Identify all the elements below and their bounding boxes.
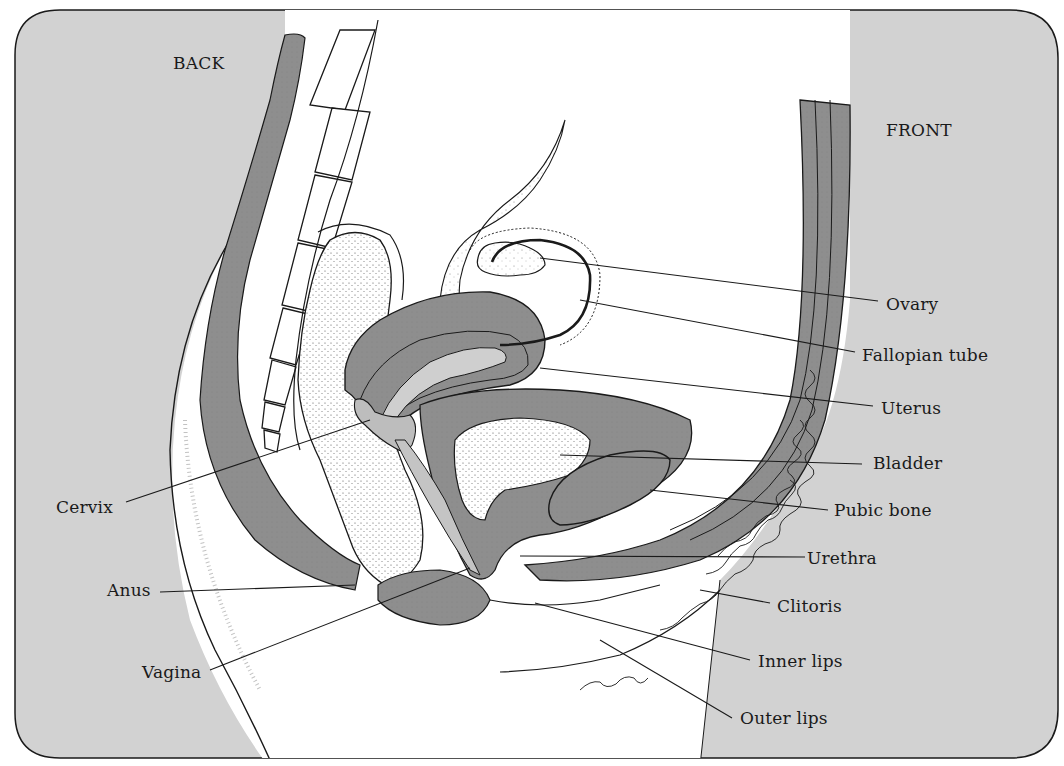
label-uterus: Uterus: [881, 400, 941, 417]
diagram-canvas: [0, 0, 1064, 766]
label-ovary: Ovary: [886, 296, 938, 313]
label-pubic-bone: Pubic bone: [834, 502, 932, 519]
label-inner-lips: Inner lips: [758, 653, 843, 670]
label-clitoris: Clitoris: [777, 598, 842, 615]
label-fallopian-tube: Fallopian tube: [862, 347, 988, 364]
anatomy-diagram: BACK FRONT Ovary Fallopian tube Uterus B…: [0, 0, 1064, 766]
label-bladder: Bladder: [873, 455, 942, 472]
label-cervix: Cervix: [56, 499, 113, 516]
back-label: BACK: [173, 55, 224, 72]
label-vagina: Vagina: [142, 664, 201, 681]
front-label: FRONT: [886, 122, 952, 139]
label-outer-lips: Outer lips: [740, 710, 828, 727]
label-anus: Anus: [107, 582, 151, 599]
label-urethra: Urethra: [807, 550, 877, 567]
